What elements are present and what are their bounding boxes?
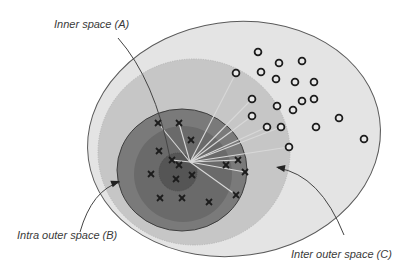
circle-marker-icon <box>361 136 368 143</box>
label-inner-space: Inner space (A) <box>54 18 129 30</box>
circle-marker-icon <box>233 70 240 77</box>
circle-marker-icon <box>274 103 281 110</box>
circle-marker-icon <box>249 113 256 120</box>
circle-marker-icon <box>258 69 265 76</box>
circle-marker-icon <box>286 144 293 151</box>
circle-marker-icon <box>336 115 343 122</box>
circle-marker-icon <box>278 124 285 131</box>
circle-marker-icon <box>299 58 306 65</box>
circle-marker-icon <box>264 124 271 131</box>
circle-marker-icon <box>290 107 297 114</box>
circle-marker-icon <box>249 96 256 103</box>
label-inter-outer-space: Inter outer space (C) <box>291 248 392 260</box>
circle-marker-icon <box>255 49 262 56</box>
region-layer <box>72 3 396 275</box>
label-intra-outer-space: Intra outer space (B) <box>17 229 117 241</box>
circle-marker-icon <box>313 124 320 131</box>
circle-marker-icon <box>311 79 318 86</box>
circle-marker-icon <box>311 96 318 103</box>
circle-marker-icon <box>299 98 306 105</box>
circle-marker-icon <box>276 60 283 67</box>
circle-marker-icon <box>273 76 280 83</box>
circle-marker-icon <box>292 79 299 86</box>
